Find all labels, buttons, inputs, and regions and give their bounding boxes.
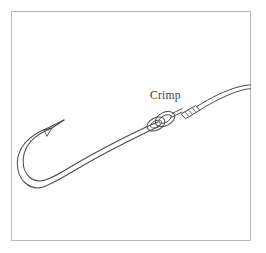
hook-crimp-illustration: Crimp xyxy=(0,0,266,253)
page-background xyxy=(0,0,266,253)
figure-container: Crimp xyxy=(0,0,266,253)
crimp-label: Crimp xyxy=(150,89,181,102)
